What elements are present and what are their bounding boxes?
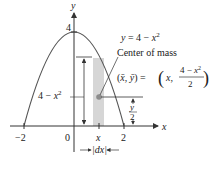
strip-rect	[93, 58, 104, 126]
dx-label: |dx|	[92, 144, 107, 155]
com-value-x: x,	[165, 72, 173, 83]
tick-label-x: x	[95, 132, 101, 143]
x-axis-label: x	[161, 121, 167, 132]
center-of-mass-dot	[96, 94, 102, 100]
y-axis-label: y	[70, 0, 76, 11]
half-height-den: 2	[130, 112, 135, 122]
half-height-num: y	[129, 102, 134, 112]
com-paren-open: (	[158, 68, 164, 89]
center-of-mass-diagram: y x 4 −2 0 x 2 y = 4 − x2 4 − x2 Center …	[0, 0, 209, 169]
com-frac-den: 2	[188, 79, 193, 89]
height-label: 4 − x2	[38, 89, 62, 101]
tick-label-2: 2	[121, 132, 126, 143]
curve-equation: y = 4 − x2	[120, 31, 160, 43]
tick-label-neg2: −2	[15, 132, 26, 143]
tick-label-0: 0	[65, 132, 70, 143]
com-paren-close: )	[203, 68, 209, 89]
com-frac-num: 4 − x2	[180, 65, 201, 75]
tick-label-4: 4	[66, 22, 71, 33]
center-of-mass-title: Center of mass	[117, 47, 177, 58]
com-coords: (x̄, ȳ) =	[117, 72, 146, 84]
